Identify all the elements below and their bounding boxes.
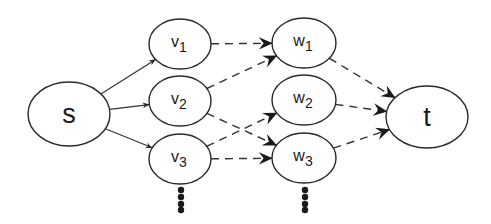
node-label: t xyxy=(423,102,431,132)
edge-v3-to-w3 xyxy=(211,158,272,159)
edge-v2-to-w3 xyxy=(207,113,277,145)
edge-s-to-v3 xyxy=(105,129,152,148)
node-label: s xyxy=(62,99,76,129)
vertical-ellipsis-v xyxy=(178,187,184,213)
node-w3: w3 xyxy=(272,133,336,183)
node-v2: v2 xyxy=(149,76,211,126)
node-s: s xyxy=(28,82,110,146)
edge-v2-to-w1 xyxy=(207,56,277,89)
node-w1: w1 xyxy=(272,18,336,68)
edge-w3-to-t xyxy=(333,130,389,149)
node-v3: v3 xyxy=(149,134,211,184)
edge-s-to-v2 xyxy=(110,105,150,110)
flow-network-diagram: sv1v2v3w1w2w3t xyxy=(0,0,491,224)
diagram-svg: sv1v2v3w1w2w3t xyxy=(0,0,491,224)
node-w2: w2 xyxy=(272,75,336,125)
ellipsis-layer xyxy=(178,187,308,213)
ellipsis-dot xyxy=(178,207,184,213)
vertical-ellipsis-w xyxy=(302,187,308,213)
node-v1: v1 xyxy=(149,19,211,69)
edge-w1-to-t xyxy=(329,58,395,97)
ellipsis-dot xyxy=(178,187,184,193)
ellipsis-dot xyxy=(302,194,308,200)
ellipsis-dot xyxy=(302,201,308,207)
ellipsis-dot xyxy=(178,194,184,200)
edge-w2-to-t xyxy=(336,104,387,111)
ellipsis-dot xyxy=(302,187,308,193)
edge-v1-to-w1 xyxy=(211,43,272,44)
node-t: t xyxy=(386,86,468,148)
edges-layer xyxy=(101,43,395,159)
ellipsis-dot xyxy=(178,201,184,207)
edge-v3-to-w2 xyxy=(207,113,277,146)
edge-s-to-v1 xyxy=(101,59,156,94)
nodes-layer: sv1v2v3w1w2w3t xyxy=(28,18,468,184)
ellipsis-dot xyxy=(302,207,308,213)
